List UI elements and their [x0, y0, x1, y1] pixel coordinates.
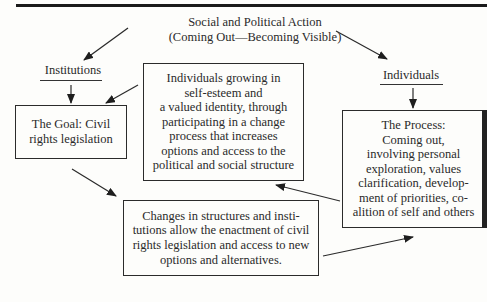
arrow-title-to-institutions [84, 28, 128, 60]
arrows-layer [0, 0, 487, 302]
arrow-changes-to-process [323, 237, 413, 256]
arrow-growing-to-goal [106, 85, 138, 103]
arrow-title-to-individuals [336, 31, 387, 59]
arrow-process-to-growing [276, 185, 340, 201]
arrow-goal-to-changes [72, 169, 116, 196]
diagram-canvas: Social and Political Action (Coming Out—… [0, 0, 487, 302]
